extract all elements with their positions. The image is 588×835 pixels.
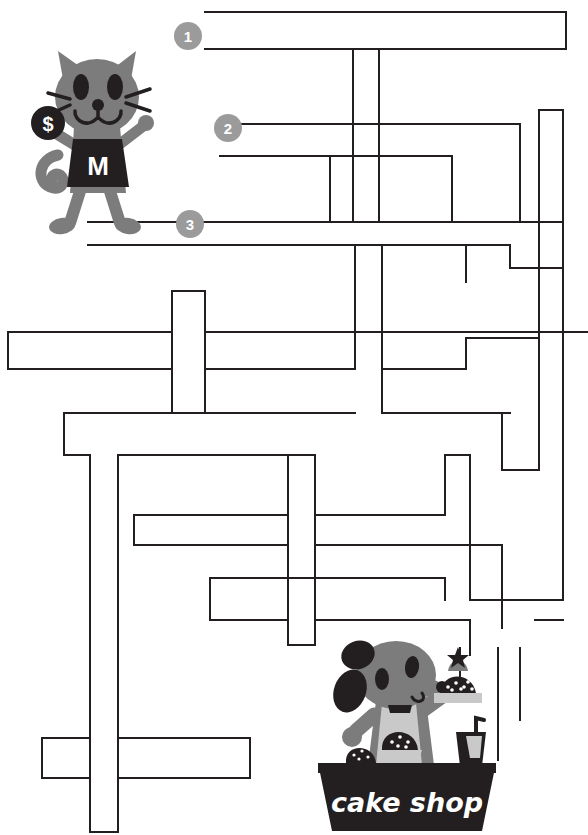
dog-hand-left (342, 727, 362, 747)
cat-eye-right (107, 74, 123, 100)
maze-worksheet: 1 2 3 (0, 0, 588, 835)
cat-hand-right (138, 115, 154, 131)
cat-tail (41, 155, 63, 188)
cat-nose (92, 99, 104, 111)
maze-canvas: 1 2 3 (0, 0, 588, 835)
cake-tray (434, 693, 482, 703)
dog-eye-left (375, 668, 389, 690)
entrance-badge-1[interactable]: 1 (174, 22, 202, 50)
badge-label-3: 3 (186, 216, 194, 233)
badge-label-1: 1 (184, 28, 192, 45)
cat-coin-symbol: $ (42, 113, 53, 135)
shop-sign-text: cake shop (331, 787, 483, 818)
badge-label-2: 2 (224, 120, 232, 137)
shop-counter-top (318, 763, 496, 773)
entrance-badge-3[interactable]: 3 (176, 210, 204, 238)
cat-eye-left (73, 74, 89, 100)
cat-shirt-letter: M (87, 151, 109, 181)
entrance-badge-2[interactable]: 2 (214, 114, 242, 142)
dog-collar (388, 705, 412, 713)
